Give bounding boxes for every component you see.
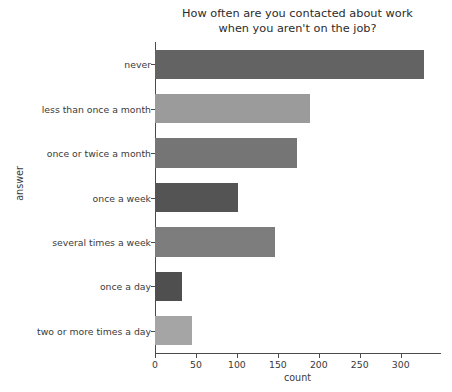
x-tick-label: 50 (176, 359, 216, 370)
y-tick-mark (151, 286, 155, 287)
x-tick-label: 300 (381, 359, 421, 370)
x-tick-mark (237, 354, 238, 358)
bar-row (155, 272, 440, 301)
y-tick-mark (151, 153, 155, 154)
y-tick-mark (151, 64, 155, 65)
bar (155, 183, 238, 212)
plot-area (155, 42, 440, 353)
x-tick-label: 250 (340, 359, 380, 370)
x-tick-mark (401, 354, 402, 358)
y-tick-label: less than once a month (42, 103, 151, 114)
bar (155, 272, 182, 301)
x-axis-label: count (155, 372, 440, 383)
y-axis-label: answer (14, 154, 25, 214)
y-tick-label: never (124, 59, 151, 70)
bar (155, 50, 424, 79)
bar-row (155, 316, 440, 345)
bar-row (155, 138, 440, 167)
bar (155, 316, 192, 345)
y-tick-label: once a day (100, 281, 151, 292)
x-tick-label: 200 (299, 359, 339, 370)
bar-row (155, 94, 440, 123)
x-tick-mark (196, 354, 197, 358)
x-tick-mark (319, 354, 320, 358)
bar-chart-figure: How often are you contacted about work w… (0, 0, 452, 392)
bar (155, 94, 310, 123)
x-axis-line (155, 353, 441, 354)
x-tick-label: 150 (258, 359, 298, 370)
y-tick-mark (151, 109, 155, 110)
x-tick-mark (155, 354, 156, 358)
y-tick-label: two or more times a day (37, 325, 151, 336)
y-tick-label: several times a week (52, 236, 151, 247)
y-tick-mark (151, 198, 155, 199)
bar (155, 138, 297, 167)
bar-row (155, 183, 440, 212)
bar-row (155, 227, 440, 256)
chart-title: How often are you contacted about work w… (155, 6, 440, 36)
y-tick-mark (151, 331, 155, 332)
x-tick-mark (360, 354, 361, 358)
y-tick-label: once a week (93, 192, 151, 203)
x-tick-label: 100 (217, 359, 257, 370)
x-tick-mark (278, 354, 279, 358)
y-tick-label: once or twice a month (47, 148, 151, 159)
bar-row (155, 50, 440, 79)
x-tick-label: 0 (135, 359, 175, 370)
bar (155, 227, 275, 256)
y-tick-mark (151, 242, 155, 243)
